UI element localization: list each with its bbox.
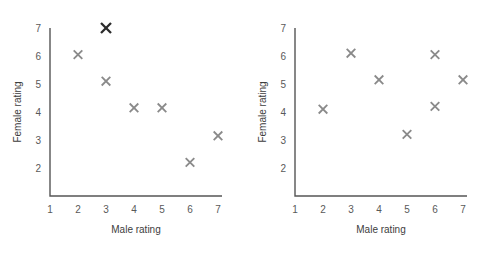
left-marker-2 <box>102 77 111 86</box>
right-y-tick-3: 3 <box>280 135 286 146</box>
right-y-tick-2: 2 <box>280 163 286 174</box>
left-x-tick-labels: 1234567 <box>47 204 221 215</box>
right-x-tick-5: 5 <box>404 204 410 215</box>
left-plot-svg: 234567 1234567 Male rating Female rating <box>0 0 245 253</box>
left-marker-6 <box>214 132 223 141</box>
right-x-axis-title: Male rating <box>356 224 405 235</box>
left-marker-3 <box>130 104 139 113</box>
left-x-tick-7: 7 <box>215 204 221 215</box>
left-x-tick-3: 3 <box>103 204 109 215</box>
left-y-axis-title: Female rating <box>12 81 23 142</box>
left-marker-0 <box>74 50 83 59</box>
right-x-tick-7: 7 <box>460 204 466 215</box>
right-marker-4 <box>431 50 440 59</box>
left-y-tick-7: 7 <box>35 23 41 34</box>
left-y-tick-labels: 234567 <box>35 23 41 174</box>
left-marker-4 <box>158 104 167 113</box>
right-x-tick-1: 1 <box>292 204 298 215</box>
right-y-tick-7: 7 <box>280 23 286 34</box>
left-y-tick-3: 3 <box>35 135 41 146</box>
right-x-tick-4: 4 <box>376 204 382 215</box>
left-y-tick-5: 5 <box>35 79 41 90</box>
left-y-tick-4: 4 <box>35 107 41 118</box>
left-x-axis-title: Male rating <box>111 224 160 235</box>
left-x-tick-2: 2 <box>75 204 81 215</box>
right-y-tick-4: 4 <box>280 107 286 118</box>
left-data-points <box>74 23 223 167</box>
chart-panel-left: 234567 1234567 Male rating Female rating <box>0 0 245 253</box>
right-marker-6 <box>459 76 468 85</box>
right-y-axis-title: Female rating <box>257 81 268 142</box>
right-y-tick-labels: 234567 <box>280 23 286 174</box>
right-marker-1 <box>347 49 356 58</box>
right-data-points <box>319 49 468 139</box>
right-marker-5 <box>431 102 440 111</box>
right-marker-0 <box>319 105 328 114</box>
left-x-tick-4: 4 <box>131 204 137 215</box>
left-x-tick-6: 6 <box>187 204 193 215</box>
chart-panel-right: 234567 1234567 Male rating Female rating <box>245 0 491 253</box>
right-plot-svg: 234567 1234567 Male rating Female rating <box>245 0 491 253</box>
right-marker-2 <box>375 76 384 85</box>
left-x-tick-1: 1 <box>47 204 53 215</box>
scatter-plot-figure: 234567 1234567 Male rating Female rating… <box>0 0 491 253</box>
left-x-tick-5: 5 <box>159 204 165 215</box>
left-marker-5 <box>186 158 195 167</box>
right-y-tick-5: 5 <box>280 79 286 90</box>
right-x-tick-2: 2 <box>320 204 326 215</box>
right-x-tick-labels: 1234567 <box>292 204 466 215</box>
right-marker-3 <box>403 130 412 139</box>
left-y-tick-6: 6 <box>35 51 41 62</box>
right-y-tick-6: 6 <box>280 51 286 62</box>
right-x-tick-6: 6 <box>432 204 438 215</box>
left-marker-1 <box>101 23 111 33</box>
left-y-tick-2: 2 <box>35 163 41 174</box>
right-x-tick-3: 3 <box>348 204 354 215</box>
